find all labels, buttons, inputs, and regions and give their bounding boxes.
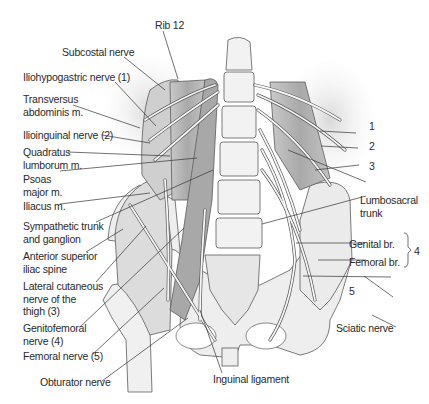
label-genitofemoral-nerve: Genitofemoral nerve (4) — [23, 322, 86, 347]
vertebral-column — [216, 37, 262, 248]
label-rib-12: Rib 12 — [155, 19, 184, 32]
label-sympathetic-trunk: Sympathetic trunk and ganglion — [23, 220, 104, 245]
label-transversus-abdominis: Transversus abdominis m. — [23, 93, 83, 118]
label-lateral-cutaneous-nerve: Lateral cutaneous nerve of the thigh (3) — [23, 280, 103, 318]
label-quadratus-lumborum: Quadratus lumborum m. — [23, 146, 82, 171]
label-obturator-nerve: Obturator nerve — [40, 376, 111, 389]
label-num-4: 4 — [414, 245, 420, 258]
label-anterior-superior-iliac-spine: Anterior superior iliac spine — [23, 250, 97, 275]
pubic-symphysis — [222, 348, 238, 366]
label-lumbosacral-trunk: Lumbosacral trunk — [360, 194, 418, 219]
label-sciatic-nerve: Sciatic nerve — [336, 322, 394, 335]
label-num-2: 2 — [369, 140, 375, 153]
label-num-5: 5 — [349, 285, 355, 298]
right-obturator-foramen — [246, 323, 286, 349]
label-iliohypogastric-nerve: Iliohypogastric nerve (1) — [23, 71, 130, 84]
left-obturator-foramen — [176, 323, 216, 349]
label-femoral-branch: Femoral br. — [349, 256, 400, 269]
right-ilium — [300, 182, 352, 310]
label-inguinal-ligament: Inguinal ligament — [213, 373, 289, 386]
label-psoas-major: Psoas major m. — [23, 173, 62, 198]
label-femoral-nerve: Femoral nerve (5) — [23, 350, 103, 363]
anatomy-figure: Rib 12 Subcostal nerve Iliohypogastric n… — [0, 0, 429, 404]
label-ilioinguinal-nerve: Ilioinguinal nerve (2) — [23, 129, 113, 142]
label-iliacus: Iliacus m. — [23, 200, 65, 213]
label-num-1: 1 — [369, 120, 375, 133]
label-num-3: 3 — [369, 160, 375, 173]
label-subcostal-nerve: Subcostal nerve — [62, 46, 134, 59]
label-genital-branch: Genital br. — [349, 238, 395, 251]
